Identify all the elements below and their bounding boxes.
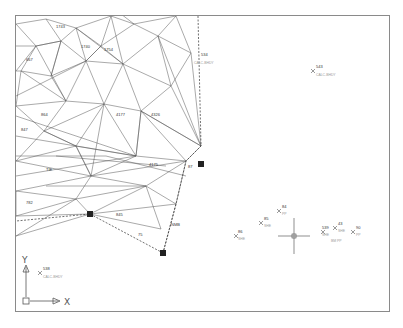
svg-text:SHE: SHE <box>264 224 272 228</box>
svg-text:75: 75 <box>138 232 143 237</box>
isolated-points <box>38 69 355 275</box>
svg-text:534: 534 <box>201 52 208 57</box>
svg-text:CALC-BHDY: CALC-BHDY <box>316 73 336 77</box>
svg-text:SHE: SHE <box>322 233 330 237</box>
crosshair-cursor <box>278 218 310 254</box>
svg-text:90: 90 <box>356 225 361 230</box>
svg-text:782: 782 <box>26 200 33 205</box>
point-labels-dense: 4177 4326 4175 845 75 87 534 CALC-BHDY N… <box>21 24 214 237</box>
svg-text:SHE: SHE <box>338 229 346 233</box>
svg-text:4326: 4326 <box>151 112 161 117</box>
svg-text:PP: PP <box>356 233 361 237</box>
svg-text:864: 864 <box>41 112 48 117</box>
control-markers <box>87 161 204 256</box>
svg-text:667: 667 <box>26 57 33 62</box>
svg-text:84: 84 <box>282 204 287 209</box>
svg-text:43: 43 <box>338 221 343 226</box>
svg-text:4175: 4175 <box>149 162 159 167</box>
svg-text:845: 845 <box>116 212 123 217</box>
drawing-canvas[interactable]: 4177 4326 4175 845 75 87 534 CALC-BHDY N… <box>16 16 389 311</box>
svg-text:538: 538 <box>43 266 50 271</box>
svg-text:847: 847 <box>21 127 28 132</box>
svg-text:BM PP: BM PP <box>331 239 342 243</box>
svg-text:1740: 1740 <box>81 44 91 49</box>
svg-text:CALC-BHDY: CALC-BHDY <box>43 275 63 279</box>
model-space-viewport[interactable]: 4177 4326 4175 845 75 87 534 CALC-BHDY N… <box>15 15 390 312</box>
svg-text:539: 539 <box>322 225 329 230</box>
svg-text:86: 86 <box>238 229 243 234</box>
isolated-point-labels: 543 CALC-BHDY 538 CALC-BHDY 86 SHE 85 SH… <box>43 64 361 279</box>
svg-text:1754: 1754 <box>104 47 114 52</box>
svg-text:4177: 4177 <box>116 112 126 117</box>
svg-text:SHE: SHE <box>238 237 246 241</box>
svg-text:TIE: TIE <box>46 167 53 172</box>
svg-text:NMB: NMB <box>171 222 180 227</box>
svg-text:1743: 1743 <box>56 24 66 29</box>
svg-text:CALC-BHDY: CALC-BHDY <box>194 61 214 65</box>
ucs-y-label: Y <box>21 255 28 265</box>
ucs-x-label: X <box>64 297 70 307</box>
svg-text:543: 543 <box>316 64 323 69</box>
svg-text:PP: PP <box>282 212 287 216</box>
svg-text:85: 85 <box>264 216 269 221</box>
ucs-icon <box>23 265 60 304</box>
svg-text:87: 87 <box>188 164 193 169</box>
